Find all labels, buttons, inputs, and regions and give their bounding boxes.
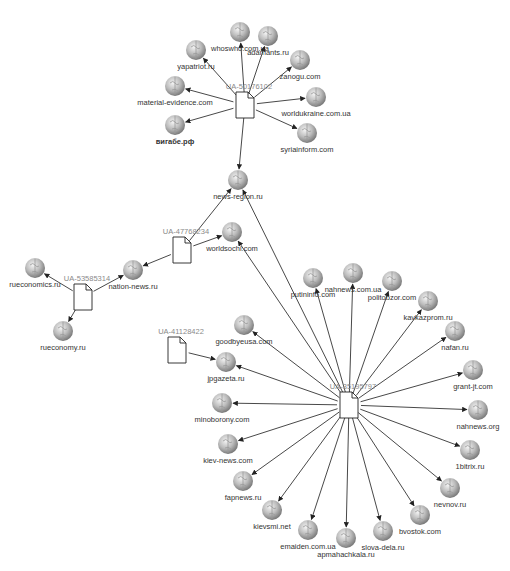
website-node[interactable]: вигабе.рф: [156, 115, 195, 146]
website-node[interactable]: rueconomy.ru: [40, 321, 85, 352]
website-label: yapatriot.ru: [177, 62, 215, 71]
website-label: worldsochi.com: [205, 244, 258, 253]
website-label: kiev-news.com: [203, 456, 253, 465]
website-node[interactable]: minoborony.com: [195, 393, 250, 424]
tracking-id-label: UA-41128422: [158, 327, 204, 336]
network-graph: UA-50176102UA-47768234UA-53585314UA-4112…: [0, 0, 510, 571]
edge-h1-s7: [186, 108, 234, 122]
website-label: jpgazeta.ru: [206, 374, 244, 383]
website-node[interactable]: nevnov.ru: [434, 478, 466, 509]
website-node[interactable]: bvostok.com: [399, 505, 441, 536]
edge-h5-s30: [346, 417, 348, 527]
website-label: nafan.ru: [441, 343, 469, 352]
website-node[interactable]: nahnews.com.ua: [325, 263, 383, 294]
website-node[interactable]: yapatriot.ru: [177, 40, 215, 71]
edge-h1-s9: [239, 117, 244, 169]
website-node[interactable]: rueconomics.ru: [9, 258, 60, 289]
tracking-id-node[interactable]: UA-41128422: [158, 327, 204, 363]
website-node[interactable]: kievsmi.net: [253, 500, 291, 531]
nodes-layer: UA-50176102UA-47768234UA-53585314UA-4112…: [9, 22, 499, 559]
website-node[interactable]: news-region.ru: [213, 170, 263, 201]
edge-h5-s21: [360, 409, 459, 446]
tracking-id-node[interactable]: UA-47768234: [163, 227, 209, 263]
website-node[interactable]: goodbyeusa.com: [215, 315, 272, 346]
document-icon: [74, 284, 92, 310]
website-label: rueconomy.ru: [40, 343, 85, 352]
website-node[interactable]: worldukraine.com.ua: [280, 87, 351, 118]
website-node[interactable]: 1bitrix.ru: [456, 440, 485, 471]
website-label: material-evidence.com: [137, 98, 212, 107]
website-label: nation-news.ru: [108, 282, 157, 291]
website-label: bvostok.com: [399, 527, 441, 536]
website-label: kavkazprom.ru: [403, 313, 452, 322]
website-node[interactable]: nafan.ru: [441, 321, 469, 352]
website-node[interactable]: grant-jt.com: [453, 360, 493, 391]
website-node[interactable]: adamants.ru: [247, 26, 289, 57]
website-label: politobzor.com: [368, 293, 416, 302]
edge-h5-s29: [311, 416, 345, 519]
tracking-id-label: UA-53585314: [64, 274, 110, 283]
website-label: minoborony.com: [195, 415, 250, 424]
edge-h5-s16: [353, 291, 388, 393]
document-icon: [340, 392, 358, 418]
document-icon: [173, 237, 191, 263]
tracking-id-node[interactable]: UA-53585314: [64, 274, 110, 310]
document-icon: [168, 337, 186, 363]
website-node[interactable]: fapnews.ru: [225, 471, 262, 502]
website-label: nevnov.ru: [434, 500, 466, 509]
document-icon: [236, 92, 254, 118]
website-label: adamants.ru: [247, 48, 289, 57]
website-label: kievsmi.net: [253, 522, 291, 531]
website-node[interactable]: nahnews.org: [457, 400, 500, 431]
edge-h5-s25: [233, 403, 337, 405]
edge-h5-s24: [236, 366, 337, 401]
tracking-id-label: UA-35195797: [330, 382, 376, 391]
edge-h5-s26: [238, 409, 337, 441]
website-node[interactable]: putininfo.com: [291, 268, 336, 299]
edge-h4-s24: [189, 353, 216, 360]
website-node[interactable]: material-evidence.com: [137, 76, 212, 107]
edge-h5-s22: [358, 413, 441, 481]
website-label: syriainform.com: [281, 145, 334, 154]
edge-h5-s15: [349, 284, 352, 393]
website-label: news-region.ru: [213, 192, 263, 201]
website-label: rueconomics.ru: [9, 280, 60, 289]
website-label: slova-dela.ru: [362, 543, 405, 552]
website-label: zanogu.com: [280, 72, 321, 81]
website-node[interactable]: jpgazeta.ru: [206, 352, 244, 383]
website-label: вигабе.рф: [156, 137, 195, 146]
edge-h2-s11: [143, 255, 171, 266]
website-label: 1bitrix.ru: [456, 462, 485, 471]
website-node[interactable]: slova-dela.ru: [362, 521, 405, 552]
tracking-id-label: UA-47768234: [163, 227, 209, 236]
website-label: goodbyeusa.com: [215, 337, 272, 346]
website-label: fapnews.ru: [225, 493, 262, 502]
tracking-id-node[interactable]: UA-50176102: [226, 82, 272, 118]
website-node[interactable]: syriainform.com: [281, 123, 334, 154]
website-label: grant-jt.com: [453, 382, 493, 391]
tracking-id-label: UA-50176102: [226, 82, 272, 91]
website-node[interactable]: worldsochi.com: [205, 222, 258, 253]
website-node[interactable]: nation-news.ru: [108, 260, 157, 291]
edge-h5-s27: [252, 412, 339, 475]
edge-h5-s28: [279, 415, 342, 501]
edge-h5-s20: [361, 405, 467, 409]
edge-h1-s6: [257, 98, 305, 103]
website-label: nahnews.org: [457, 422, 500, 431]
website-label: worldukraine.com.ua: [280, 109, 351, 118]
